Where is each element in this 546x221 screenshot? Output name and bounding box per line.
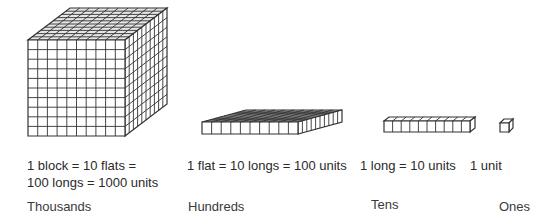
block-equation-line2: 100 longs = 1000 units xyxy=(27,175,158,191)
thousand-block-icon xyxy=(28,8,167,136)
unit-equation: 1 unit xyxy=(470,158,502,174)
hundred-flat-icon xyxy=(202,110,342,134)
place-label-hundreds: Hundreds xyxy=(188,199,244,215)
place-label-ones: Ones xyxy=(499,199,530,215)
place-label-thousands: Thousands xyxy=(27,199,91,215)
place-label-tens: Tens xyxy=(371,197,398,213)
long-equation: 1 long = 10 units xyxy=(360,158,456,174)
flat-equation: 1 flat = 10 longs = 100 units xyxy=(187,158,347,174)
ten-long-icon xyxy=(384,117,475,132)
block-equation-line1: 1 block = 10 flats = xyxy=(27,158,136,174)
one-unit-icon xyxy=(500,119,513,132)
